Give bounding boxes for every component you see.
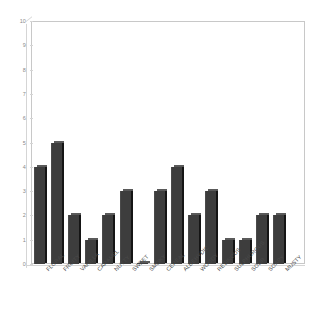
x-axis-tick-label: MUSTY [284,254,303,273]
bar-chart: 012345678910 FLORALFRUITYVANILLACARAMELN… [0,0,321,322]
x-axis-tick-label: SMOKY [148,253,168,273]
x-axis-labels: FLORALFRUITYVANILLACARAMELNUTTYSWEETSMOK… [0,0,321,322]
x-axis-tick-label: SOAPY [267,254,286,273]
x-axis-tick-label: SOUR [250,256,267,273]
x-axis-tick-label: SWEET [131,253,151,273]
